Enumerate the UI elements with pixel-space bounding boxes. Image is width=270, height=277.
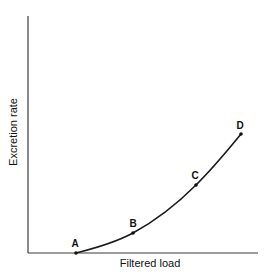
excretion-rate-chart: A B C D Filtered load Excretion rate xyxy=(0,0,270,277)
excretion-curve xyxy=(76,134,241,253)
x-axis-label: Filtered load xyxy=(120,257,181,269)
point-a-marker xyxy=(74,251,78,255)
point-b-label: B xyxy=(129,218,136,229)
y-axis-label: Excretion rate xyxy=(7,98,19,166)
point-d-label: D xyxy=(236,120,243,131)
point-c-marker xyxy=(194,183,198,187)
point-b-marker xyxy=(131,231,135,235)
point-d-marker xyxy=(239,132,243,136)
point-a-label: A xyxy=(71,238,78,249)
point-c-label: C xyxy=(191,170,198,181)
